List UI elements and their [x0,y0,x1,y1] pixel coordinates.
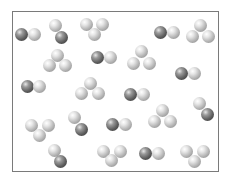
light-atom-icon [137,88,150,101]
light-atom-icon [156,104,169,117]
light-atom-icon [164,115,177,128]
light-atom-icon [143,57,156,70]
light-atom-icon [194,19,207,32]
light-atom-icon [188,67,201,80]
light-atom-icon [135,45,148,58]
light-atom-icon [75,87,88,100]
dark-atom-icon [106,118,119,131]
light-atom-icon [68,111,81,124]
light-atom-icon [105,154,118,167]
light-atom-icon [202,30,215,43]
dark-atom-icon [55,31,68,44]
light-atom-icon [92,87,105,100]
dark-atom-icon [75,123,88,136]
dark-atom-icon [15,28,28,41]
light-atom-icon [186,30,199,43]
dark-atom-icon [201,108,214,121]
light-atom-icon [88,28,101,41]
dark-atom-icon [154,26,167,39]
light-atom-icon [152,147,165,160]
light-atom-icon [33,80,46,93]
dark-atom-icon [139,147,152,160]
light-atom-icon [148,115,161,128]
dark-atom-icon [124,88,137,101]
light-atom-icon [59,59,72,72]
light-atom-icon [167,26,180,39]
light-atom-icon [188,155,201,168]
dark-atom-icon [21,80,34,93]
light-atom-icon [119,118,132,131]
light-atom-icon [49,19,62,32]
light-atom-icon [104,51,117,64]
dark-atom-icon [91,51,104,64]
light-atom-icon [127,57,140,70]
dark-atom-icon [54,155,67,168]
light-atom-icon [43,59,56,72]
light-atom-icon [193,97,206,110]
light-atom-icon [28,28,41,41]
light-atom-icon [33,129,46,142]
dark-atom-icon [175,67,188,80]
